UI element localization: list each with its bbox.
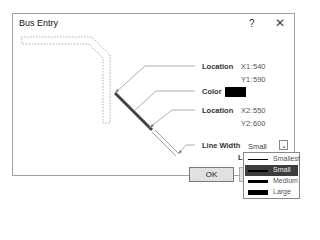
partial-label: L: [238, 153, 243, 162]
y1-value[interactable]: 590: [253, 75, 266, 84]
line-width-select[interactable]: Small: [248, 142, 267, 151]
bus-outline: [21, 37, 110, 123]
y2-value[interactable]: 600: [253, 119, 266, 128]
line-sample: [248, 159, 268, 160]
x1-label: X1:: [241, 62, 252, 71]
x2-value[interactable]: 550: [253, 106, 266, 115]
ok-button[interactable]: OK: [189, 167, 234, 182]
color-swatch[interactable]: [225, 87, 246, 97]
line-width-dropdown: Smallest Small Medium Large: [243, 152, 300, 199]
location2-label: Location: [202, 106, 233, 115]
chevron-down-icon[interactable]: ⌄: [279, 140, 288, 150]
dropdown-option-small[interactable]: Small: [245, 165, 298, 176]
line-sample: [248, 170, 268, 172]
dropdown-option-medium[interactable]: Medium: [245, 176, 298, 187]
dropdown-option-smallest[interactable]: Smallest: [245, 154, 298, 165]
y1-label: Y1:: [241, 75, 252, 84]
x1-value[interactable]: 540: [253, 62, 266, 71]
color-label: Color: [202, 87, 222, 96]
bus-entry-line: [115, 93, 152, 130]
location1-label: Location: [202, 62, 233, 71]
line-sample: [248, 190, 268, 195]
x2-label: X2:: [241, 106, 252, 115]
line-width-label: Line Width: [202, 141, 240, 150]
line-sample: [248, 180, 268, 183]
dropdown-option-large[interactable]: Large: [245, 187, 298, 198]
y2-label: Y2:: [241, 119, 252, 128]
